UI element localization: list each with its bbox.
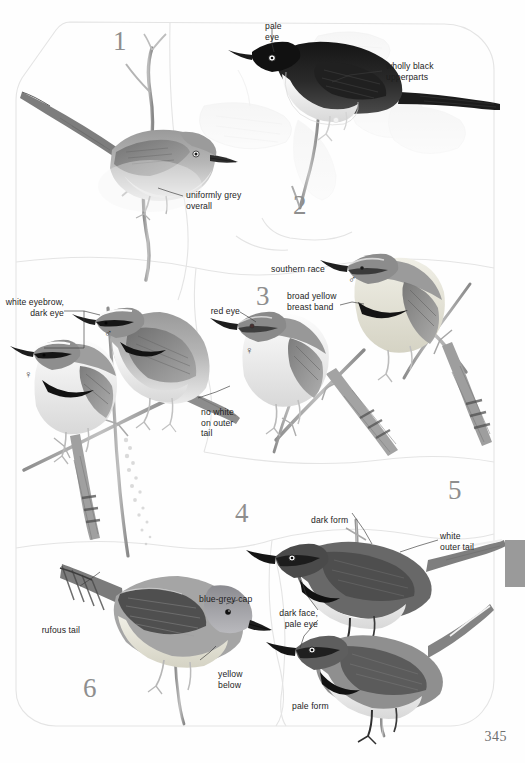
label-red-eye: red eye: [176, 306, 240, 317]
label-white-eyebrow-dark-eye: white eyebrow, dark eye: [0, 297, 64, 318]
label-pale-eye: pale eye: [265, 21, 282, 42]
sex-symbol-male-plate-3: ♂: [348, 274, 356, 285]
bird-plate-5: [246, 520, 506, 744]
plate-number-4: 4: [235, 500, 249, 527]
page-thumb-tab: [505, 540, 525, 587]
plate-number-1: 1: [113, 28, 127, 55]
plate-number-3: 3: [256, 283, 270, 310]
sex-symbol-female-plate-3: ♀: [245, 345, 253, 356]
plate-number-2: 2: [293, 192, 307, 219]
field-guide-plate-page: 1 2 3 4 5 6 pale eye wholly black upperp…: [0, 0, 525, 763]
label-wholly-black-upperparts: wholly black upperparts: [386, 61, 434, 82]
plate-number-5: 5: [448, 477, 462, 504]
label-dark-form: dark form: [311, 515, 348, 526]
label-blue-grey-cap: blue-grey cap: [199, 594, 252, 605]
bird-plate-1: [20, 34, 238, 280]
label-broad-yellow-breast-band: broad yellow breast band: [287, 291, 336, 312]
label-yellow-below: yellow below: [218, 669, 242, 690]
label-southern-race: southern race: [271, 264, 325, 275]
label-no-white-on-outer-tail: no white on outer tail: [201, 407, 234, 439]
label-uniformly-grey-overall: uniformly grey overall: [186, 190, 241, 211]
label-dark-face-pale-eye: dark face, pale eye: [250, 608, 318, 629]
page-number: 345: [485, 729, 508, 745]
sex-symbol-female-plate-4: ♀: [24, 369, 32, 380]
plate-number-6: 6: [83, 675, 97, 702]
label-rufous-tail: rufous tail: [12, 625, 80, 636]
plate-artwork: [0, 0, 525, 763]
label-pale-form: pale form: [292, 701, 329, 712]
sex-symbol-male-plate-4: ♂: [104, 328, 112, 339]
label-white-outer-tail: white outer tail: [440, 531, 474, 552]
